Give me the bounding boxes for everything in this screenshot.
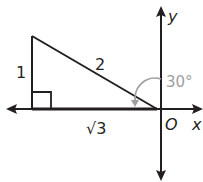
- y-axis: [156, 6, 166, 181]
- triangle-diagram: 1 2 √3 30° O x y: [0, 0, 203, 182]
- label-x-axis: x: [191, 115, 202, 134]
- right-angle-mark-icon: [32, 92, 51, 109]
- label-origin: O: [165, 115, 178, 134]
- label-side-sqrt3: √3: [86, 119, 106, 138]
- label-side-1: 1: [16, 63, 26, 82]
- label-angle: 30°: [166, 73, 193, 91]
- angle-arrow-icon: [131, 100, 139, 107]
- label-hypotenuse: 2: [95, 55, 105, 74]
- label-y-axis: y: [167, 7, 178, 26]
